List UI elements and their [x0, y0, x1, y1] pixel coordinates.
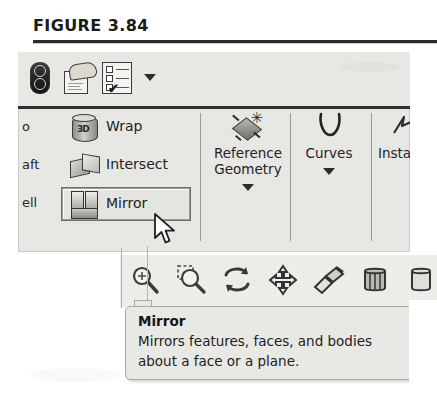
- display-style-svg: [358, 263, 392, 297]
- figure-caption: FIGURE 3.84: [33, 16, 149, 35]
- screenshot-scan-area: ✔ o aft ell 3D Wrap: [0, 48, 437, 405]
- tooltip-title: Mirror: [138, 313, 185, 329]
- checklist-line: [116, 87, 129, 88]
- spline-curve-svg: [316, 111, 344, 143]
- appearance-svg: [404, 263, 437, 297]
- view-toolbar: [120, 255, 437, 307]
- appearance-icon[interactable]: [404, 263, 437, 297]
- wrap-icon-glyph: 3D: [77, 124, 89, 134]
- panel-right-clip-mask: [410, 52, 437, 252]
- scan-blotch: [30, 368, 120, 382]
- intersect-icon-block-b: [82, 153, 100, 173]
- reference-plane-icon: ✳: [232, 113, 264, 143]
- mirror-blocks-icon: [70, 190, 100, 219]
- intersect-solids-icon: [70, 152, 100, 180]
- zoom-to-area-icon[interactable]: [174, 263, 208, 297]
- quick-access-toolbar: ✔: [18, 52, 410, 106]
- sparkle-icon: ✳: [250, 111, 263, 126]
- tooltip-right-clip-mask: [409, 300, 437, 382]
- curves-button[interactable]: Curves: [294, 111, 364, 175]
- reference-icon-axis: [232, 115, 239, 121]
- mirror-icon-base: [71, 208, 98, 219]
- checklist-icon[interactable]: ✔: [102, 62, 132, 94]
- checklist-line: [116, 69, 129, 70]
- section-view-icon[interactable]: [312, 263, 346, 297]
- zoom-to-fit-icon[interactable]: [128, 263, 162, 297]
- mouse-pointer-svg: [152, 212, 178, 246]
- chevron-down-icon[interactable]: [323, 168, 335, 175]
- caption-divider: [33, 40, 437, 43]
- display-style-icon[interactable]: [358, 263, 392, 297]
- ribbon-command-area: o aft ell 3D Wrap Intersect: [18, 109, 410, 252]
- ribbon-separator: [371, 113, 372, 241]
- wrap-icon-cap: [72, 114, 96, 122]
- intersect-button[interactable]: Intersect: [62, 149, 190, 183]
- zoom-to-area-svg: [174, 263, 208, 297]
- evaluate-icon-circle-bottom: [34, 78, 46, 90]
- hand-document-icon[interactable]: [62, 62, 96, 94]
- checklist-row: [106, 66, 130, 73]
- doc-line: [68, 89, 82, 90]
- spline-curve-icon: [316, 111, 344, 143]
- mirror-button-label: Mirror: [106, 195, 147, 211]
- reference-geometry-label-line2: Geometry: [206, 161, 290, 177]
- wrap-button[interactable]: 3D Wrap: [62, 111, 190, 145]
- checklist-box: ✔: [106, 84, 113, 91]
- rotate-view-icon[interactable]: [220, 263, 254, 297]
- evaluate-icon-circle-top: [34, 65, 46, 77]
- checklist-line: [116, 78, 129, 79]
- tooltip-leader-line: [147, 246, 148, 302]
- ribbon-separator: [290, 113, 291, 241]
- pan-view-svg: [266, 263, 300, 297]
- hand-document-icon-hand: [68, 61, 98, 81]
- evaluate-icon[interactable]: [30, 62, 50, 94]
- zoom-to-fit-svg: [128, 263, 162, 297]
- ribbon-panel: ✔ o aft ell 3D Wrap: [18, 52, 410, 252]
- ribbon-separator: [200, 113, 201, 241]
- rotate-view-svg: [220, 263, 254, 297]
- tooltip-description: Mirrors features, faces, and bodies abou…: [138, 331, 408, 371]
- wrap-button-label: Wrap: [106, 118, 142, 134]
- tooltip: Mirror Mirrors features, faces, and bodi…: [125, 306, 412, 380]
- section-view-svg: [312, 263, 346, 297]
- curves-label-line1: Curves: [294, 145, 364, 161]
- clipped-label-draft[interactable]: aft: [22, 157, 39, 172]
- checkmark-icon: ✔: [108, 82, 119, 95]
- mouse-pointer: [152, 212, 178, 246]
- clipped-label-shell[interactable]: ell: [22, 195, 37, 210]
- clipped-label-dome[interactable]: o: [22, 119, 30, 134]
- tooltip-leader-line: [121, 248, 122, 308]
- reference-geometry-label-line1: Reference: [206, 145, 290, 161]
- doc-line: [68, 83, 83, 84]
- checklist-box: [106, 66, 113, 73]
- cylinder-wrap-icon: 3D: [70, 113, 98, 142]
- doc-line: [68, 86, 80, 87]
- reference-geometry-button[interactable]: ✳ Reference Geometry: [206, 111, 290, 191]
- chevron-down-icon[interactable]: [144, 74, 156, 81]
- checklist-row: ✔: [106, 84, 130, 91]
- chevron-down-icon[interactable]: [242, 184, 254, 191]
- intersect-button-label: Intersect: [106, 156, 168, 172]
- pan-view-icon[interactable]: [266, 263, 300, 297]
